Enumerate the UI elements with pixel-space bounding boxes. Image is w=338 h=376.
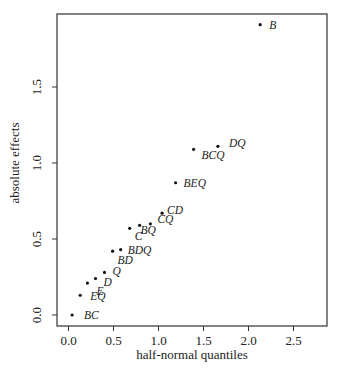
x-tick-label: 1.0 bbox=[150, 333, 166, 348]
x-tick-label: 0.5 bbox=[105, 333, 121, 348]
point-label: BEQ bbox=[184, 177, 207, 189]
y-tick-label: 0.5 bbox=[29, 231, 44, 247]
plot-frame bbox=[57, 14, 327, 326]
data-point bbox=[174, 181, 177, 184]
data-points: BCEQEDQBDBDQCBQCQCDBEQBCQDQB bbox=[71, 19, 277, 321]
point-label: BC bbox=[84, 309, 99, 321]
data-point bbox=[94, 277, 97, 280]
x-tick-label: 0.0 bbox=[60, 333, 76, 348]
point-label: BCQ bbox=[202, 149, 226, 161]
data-point bbox=[86, 281, 89, 284]
data-point bbox=[128, 227, 131, 230]
data-point bbox=[259, 23, 262, 26]
point-label: BDQ bbox=[128, 244, 152, 256]
x-tick-label: 2.5 bbox=[285, 333, 301, 348]
half-normal-plot: 0.00.51.01.52.02.5 0.00.51.01.5 BCEQEDQB… bbox=[0, 0, 338, 376]
point-label: BQ bbox=[141, 224, 157, 236]
y-tick-label: 1.0 bbox=[29, 155, 44, 171]
point-label: CD bbox=[167, 204, 184, 216]
y-axis: 0.00.51.01.5 bbox=[29, 79, 57, 323]
data-point bbox=[192, 148, 195, 151]
data-point bbox=[111, 250, 114, 253]
point-label: B bbox=[269, 19, 276, 31]
point-label: Q bbox=[113, 265, 122, 277]
data-point bbox=[216, 145, 219, 148]
point-label: DQ bbox=[228, 137, 246, 149]
y-tick-label: 0.0 bbox=[29, 307, 44, 323]
point-label: E bbox=[95, 285, 103, 297]
y-tick-label: 1.5 bbox=[29, 79, 44, 95]
x-tick-label: 2.0 bbox=[240, 333, 256, 348]
y-axis-title: absolute effects bbox=[7, 123, 22, 204]
data-point bbox=[71, 313, 74, 316]
x-axis-title: half-normal quantiles bbox=[136, 347, 248, 362]
data-point bbox=[103, 271, 106, 274]
x-tick-label: 1.5 bbox=[195, 333, 211, 348]
data-point bbox=[79, 294, 82, 297]
point-label: BD bbox=[118, 254, 134, 266]
x-axis: 0.00.51.01.52.02.5 bbox=[60, 326, 301, 348]
data-point bbox=[161, 212, 164, 215]
point-label: D bbox=[103, 276, 113, 288]
data-point bbox=[149, 222, 152, 225]
data-point bbox=[119, 248, 122, 251]
